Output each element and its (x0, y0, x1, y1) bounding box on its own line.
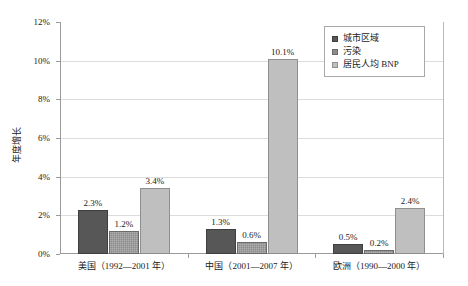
legend-swatch-icon (332, 62, 338, 68)
y-tick-mark (56, 254, 60, 255)
y-tick-mark (56, 138, 60, 139)
bar-chart: 年度增长 0%2%4%6%8%10%12% 2.3%1.2%3.4%1.3%0.… (0, 0, 468, 286)
y-tick-mark (56, 99, 60, 100)
bar-value-label: 1.3% (200, 217, 242, 227)
bar-value-label: 2.4% (389, 196, 431, 206)
y-tick-label: 12% (4, 17, 50, 27)
bar[interactable] (395, 208, 425, 254)
gridline (61, 138, 443, 139)
y-tick-mark (56, 215, 60, 216)
x-tick-mark (315, 254, 316, 258)
bar-value-label: 0.2% (358, 238, 400, 248)
legend-label: 城市区域 (343, 33, 379, 44)
bar[interactable] (140, 188, 170, 254)
legend-swatch-icon (332, 49, 338, 55)
y-tick-label: 2% (4, 210, 50, 220)
legend-item[interactable]: 污染 (332, 45, 418, 58)
y-tick-label: 8% (4, 94, 50, 104)
gridline (61, 215, 443, 216)
legend-item[interactable]: 城市区域 (332, 32, 418, 45)
bar[interactable] (78, 210, 108, 254)
y-tick-label: 4% (4, 172, 50, 182)
bar-value-label: 2.3% (72, 198, 114, 208)
bar[interactable] (109, 231, 139, 254)
gridline (61, 99, 443, 100)
legend-label: 污染 (343, 46, 361, 57)
gridline (61, 177, 443, 178)
bar-value-label: 3.4% (134, 176, 176, 186)
legend-item[interactable]: 居民人均 BNP (332, 58, 418, 71)
legend-swatch-icon (332, 36, 338, 42)
legend: 城市区域 污染 居民人均 BNP (324, 26, 425, 77)
bar-value-label: 1.2% (103, 219, 145, 229)
x-category-label: 中国（2001—2007 年） (182, 261, 322, 272)
x-category-label: 欧洲（1990—2000 年） (309, 261, 449, 272)
plot-right-border (443, 22, 444, 254)
y-tick-mark (56, 22, 60, 23)
bar-value-label: 10.1% (262, 47, 304, 57)
bar-value-label: 0.6% (231, 230, 273, 240)
legend-label: 居民人均 BNP (343, 59, 399, 70)
x-tick-mark (443, 254, 444, 258)
y-tick-mark (56, 177, 60, 178)
y-tick-mark (56, 61, 60, 62)
y-tick-label: 10% (4, 56, 50, 66)
bar[interactable] (364, 250, 394, 254)
x-category-label: 美国（1992—2001 年） (54, 261, 194, 272)
bar[interactable] (237, 242, 267, 254)
x-tick-mark (188, 254, 189, 258)
bar[interactable] (268, 59, 298, 254)
y-tick-label: 0% (4, 249, 50, 259)
y-tick-label: 6% (4, 133, 50, 143)
